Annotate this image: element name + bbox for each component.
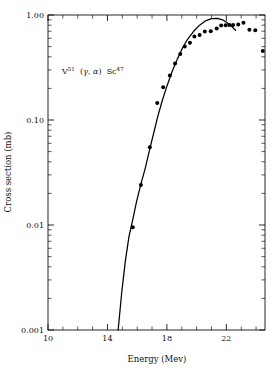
x-tick-label: 10: [43, 334, 53, 343]
y-tick-label: 0.001: [21, 326, 44, 335]
data-point: [168, 74, 172, 78]
cross-section-log-plot: 10141822 1.000.100.010.001 Energy (Mev) …: [0, 0, 280, 370]
annotation-product: Sc: [107, 67, 117, 76]
data-point: [247, 28, 251, 32]
data-point: [155, 101, 159, 105]
annotation-product-mass: 47: [117, 66, 125, 72]
x-tick-label: 22: [221, 334, 231, 343]
figure-container: 10141822 1.000.100.010.001 Energy (Mev) …: [0, 0, 280, 370]
y-tick-label: 0.01: [26, 221, 44, 230]
data-point: [192, 34, 196, 38]
x-tick-label: 18: [162, 334, 172, 343]
data-point: [236, 23, 240, 27]
data-point: [131, 225, 135, 229]
data-point: [219, 23, 223, 27]
annotation-target-mass: 51: [68, 66, 75, 72]
data-point: [203, 30, 207, 34]
data-point: [241, 21, 245, 25]
x-tick-label: 14: [102, 334, 112, 343]
data-point: [224, 23, 228, 27]
y-axis-label: Cross section (mb): [3, 132, 13, 213]
data-point: [148, 145, 152, 149]
data-point: [231, 23, 235, 27]
data-point: [183, 45, 187, 49]
data-point: [253, 28, 257, 32]
data-point: [139, 183, 143, 187]
x-axis-label: Energy (Mev): [128, 354, 187, 364]
data-point: [188, 41, 192, 45]
data-point: [261, 49, 265, 53]
data-point: [209, 29, 213, 33]
data-point: [198, 33, 202, 37]
data-point: [161, 85, 165, 89]
y-tick-label: 1.00: [26, 11, 44, 20]
data-point: [227, 23, 231, 27]
y-tick-label: 0.10: [26, 116, 44, 125]
data-point: [178, 52, 182, 56]
data-point: [215, 26, 219, 30]
data-point: [173, 62, 177, 66]
